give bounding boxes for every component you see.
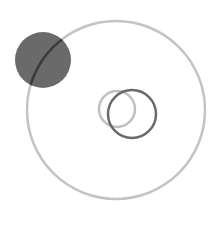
circles-canvas <box>0 0 219 242</box>
